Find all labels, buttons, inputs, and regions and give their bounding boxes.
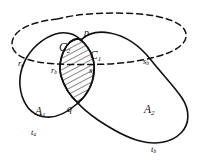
label-A2: A2 xyxy=(144,104,155,117)
label-ta: ta xyxy=(31,128,36,138)
label-tb: tb xyxy=(151,145,156,155)
label-ra-sub: a xyxy=(21,62,24,68)
label-A1: A1 xyxy=(35,106,46,119)
label-sa-sub: a xyxy=(92,69,95,75)
label-A1-sub: 1 xyxy=(42,111,46,119)
label-C1-main: C xyxy=(90,49,98,61)
label-A2-sub: 2 xyxy=(151,109,155,117)
label-ta-sub: a xyxy=(33,131,36,137)
label-p: p xyxy=(84,28,89,38)
label-C1: C1 xyxy=(90,50,101,63)
label-C2-main: C xyxy=(59,41,67,53)
label-C2-sub: 2 xyxy=(67,47,71,55)
label-sb-sub: b xyxy=(146,60,149,66)
diagram-svg xyxy=(0,0,201,167)
label-rb: rb xyxy=(51,66,57,76)
label-rb-sub: b xyxy=(54,69,57,75)
figure-canvas: p q C1 C2 A1 A2 ra rb sa sb ta tb xyxy=(0,0,201,167)
label-C1-sub: 1 xyxy=(98,55,102,63)
point-q-dot xyxy=(77,102,80,105)
label-tb-sub: b xyxy=(153,148,156,154)
label-ra: ra xyxy=(18,59,24,69)
label-q: q xyxy=(67,104,72,114)
label-C2: C2 xyxy=(59,42,70,55)
label-sb: sb xyxy=(143,57,149,67)
point-p-dot xyxy=(80,39,83,42)
label-sa: sa xyxy=(89,66,95,76)
label-A2-main: A xyxy=(144,103,151,115)
label-A1-main: A xyxy=(35,105,42,117)
